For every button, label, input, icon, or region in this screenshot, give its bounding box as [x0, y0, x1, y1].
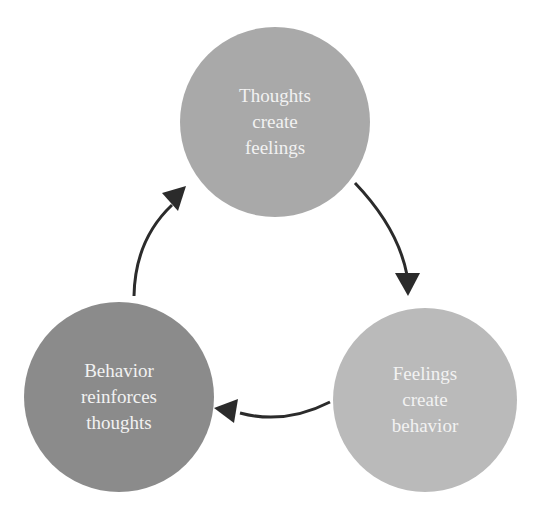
- node-feelings-line-2: create: [402, 387, 447, 413]
- node-behavior-line-3: thoughts: [86, 410, 151, 436]
- arrow-feelings-to-behavior: [214, 399, 330, 423]
- node-thoughts-line-3: feelings: [245, 135, 305, 161]
- arrow-behavior-to-thoughts: [134, 186, 186, 296]
- node-thoughts-line-2: create: [252, 109, 297, 135]
- node-thoughts-label: Thoughts create feelings: [195, 82, 355, 162]
- node-behavior-label: Behavior reinforces thoughts: [39, 357, 199, 437]
- node-behavior-line-2: reinforces: [81, 384, 157, 410]
- node-feelings-line-1: Feelings: [393, 361, 457, 387]
- node-thoughts-line-1: Thoughts: [239, 83, 311, 109]
- node-feelings-line-3: behavior: [392, 413, 458, 439]
- arrow-thoughts-to-feelings: [355, 183, 420, 296]
- node-feelings-label: Feelings create behavior: [345, 360, 505, 440]
- node-behavior-line-1: Behavior: [84, 358, 154, 384]
